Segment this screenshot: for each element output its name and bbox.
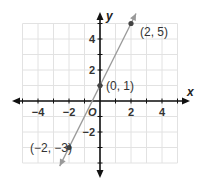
x-tick-label: −2 [63, 106, 76, 118]
y-tick-label: 4 [89, 33, 96, 45]
x-tick-label: 2 [128, 106, 134, 118]
y-tick-label: −2 [82, 126, 95, 138]
x-tick-label: −4 [32, 106, 45, 118]
point-label: (0, 1) [106, 79, 134, 93]
y-axis-label: y [105, 9, 114, 23]
point-label: (2, 5) [140, 25, 168, 39]
x-axis-label: x [186, 85, 195, 99]
point-label: (−2, −3) [30, 141, 72, 155]
x-tick-label: 4 [159, 106, 166, 118]
point-marker [128, 21, 133, 26]
origin-label: O [88, 106, 97, 118]
data-points: (−2, −3)(0, 1)(2, 5) [30, 21, 168, 155]
y-tick-label: 2 [89, 64, 95, 76]
coordinate-plane: −4−22442−2 (−2, −3)(0, 1)(2, 5) x y O [0, 0, 200, 182]
point-marker [97, 83, 102, 88]
